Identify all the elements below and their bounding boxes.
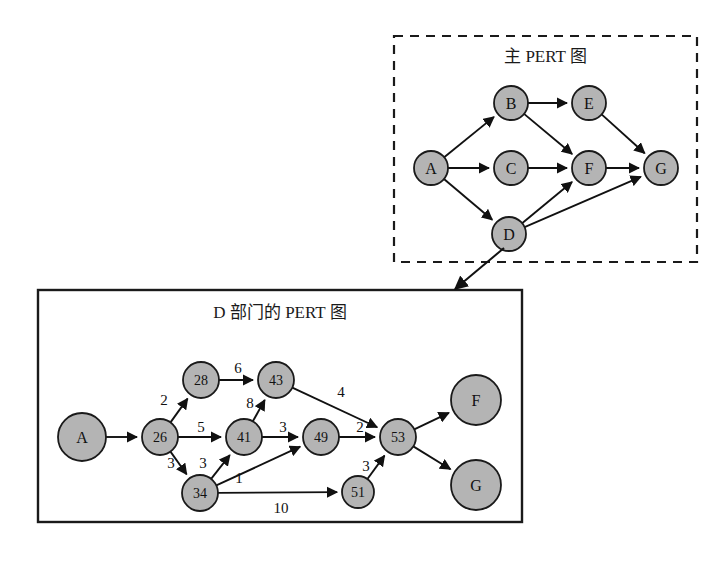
main-pert-edges <box>444 103 645 227</box>
node-label: 53 <box>391 430 405 445</box>
node-label: 51 <box>351 485 365 500</box>
edge-weight-n26-to-n28: 2 <box>160 392 168 408</box>
edge-n41-to-n43 <box>253 400 265 421</box>
node-label: 26 <box>153 430 167 445</box>
node-label: 34 <box>193 486 207 501</box>
main-pert-border <box>394 36 697 262</box>
pert-canvas: 主 PERT 图 ABCDEFG D 部门的 PERT 图 2536383110… <box>0 0 726 561</box>
node-43[interactable]: 43 <box>258 362 294 398</box>
main-pert-group: 主 PERT 图 ABCDEFG <box>394 36 697 262</box>
node-label: F <box>585 160 594 177</box>
edge-A-to-B <box>444 117 494 157</box>
node-41[interactable]: 41 <box>226 419 262 455</box>
node-26[interactable]: 26 <box>142 419 178 455</box>
edge-n34-to-n51 <box>218 492 337 493</box>
edge-B-to-F <box>524 114 572 154</box>
node-B[interactable]: B <box>494 86 528 120</box>
edge-weight-n43-to-n53: 4 <box>337 384 345 400</box>
edge-weight-n51-to-n53: 3 <box>362 458 370 474</box>
node-34[interactable]: 34 <box>182 475 218 511</box>
pert-figure: 主 PERT 图 ABCDEFG D 部门的 PERT 图 2536383110… <box>0 0 726 561</box>
node-label: 43 <box>269 373 283 388</box>
edge-E-to-G <box>602 114 645 153</box>
node-49[interactable]: 49 <box>303 419 339 455</box>
node-label: A <box>76 429 88 446</box>
node-label: C <box>506 160 517 177</box>
edge-n53-to-G <box>413 446 450 469</box>
edge-weight-n41-to-n43: 8 <box>246 395 254 411</box>
node-label: G <box>655 160 667 177</box>
node-F[interactable]: F <box>451 375 501 425</box>
node-label: 28 <box>194 373 208 388</box>
node-C[interactable]: C <box>494 151 528 185</box>
edge-weight-n26-to-n41: 5 <box>197 419 205 435</box>
node-label: 41 <box>237 430 251 445</box>
node-G[interactable]: G <box>644 151 678 185</box>
node-label: E <box>584 95 594 112</box>
detail-pert-title: D 部门的 PERT 图 <box>213 303 346 322</box>
node-label: F <box>472 392 481 409</box>
drilldown-arrow <box>455 248 504 289</box>
detail-pert-border <box>38 290 522 522</box>
edge-n51-to-n53 <box>367 456 384 479</box>
node-label: G <box>470 477 482 494</box>
node-A[interactable]: A <box>414 151 448 185</box>
main-pert-title: 主 PERT 图 <box>504 47 587 66</box>
edge-weight-n34-to-n51: 10 <box>274 500 289 516</box>
node-label: B <box>506 95 517 112</box>
edge-weight-n34-to-n41: 3 <box>199 455 207 471</box>
node-A[interactable]: A <box>58 413 106 461</box>
node-label: D <box>503 226 515 243</box>
node-28[interactable]: 28 <box>183 362 219 398</box>
edge-n53-to-F <box>414 413 449 429</box>
drilldown-arrow-line <box>455 248 504 289</box>
edge-weight-n28-to-n43: 6 <box>234 360 242 376</box>
edge-weight-n41-to-n49: 3 <box>279 419 287 435</box>
edge-n34-to-n41 <box>211 455 230 479</box>
edge-n43-to-n53 <box>292 388 377 428</box>
edge-n34-to-n49 <box>216 447 300 486</box>
node-label: A <box>425 160 437 177</box>
node-label: 49 <box>314 430 328 445</box>
node-53[interactable]: 53 <box>380 419 416 455</box>
detail-pert-group: D 部门的 PERT 图 2536383110423 A262834414349… <box>38 290 522 522</box>
edge-weight-n49-to-n53: 2 <box>356 419 364 435</box>
node-E[interactable]: E <box>572 86 606 120</box>
edge-n26-to-n28 <box>171 399 188 423</box>
edge-A-to-D <box>444 179 492 220</box>
node-51[interactable]: 51 <box>342 476 374 508</box>
node-G[interactable]: G <box>451 460 501 510</box>
edge-weight-n34-to-n49: 1 <box>235 470 243 486</box>
node-D[interactable]: D <box>492 217 526 251</box>
edge-weight-n26-to-n34: 3 <box>167 455 175 471</box>
node-F[interactable]: F <box>572 151 606 185</box>
